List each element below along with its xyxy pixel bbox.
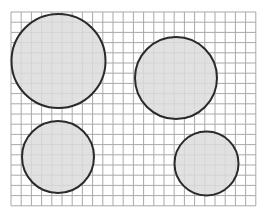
circles-grid-diagram <box>0 0 267 218</box>
small-circle-bottom-right <box>175 132 239 196</box>
large-circle-top-left <box>12 14 106 108</box>
circle-bottom-left <box>22 121 94 193</box>
circle-top-right <box>135 37 217 119</box>
